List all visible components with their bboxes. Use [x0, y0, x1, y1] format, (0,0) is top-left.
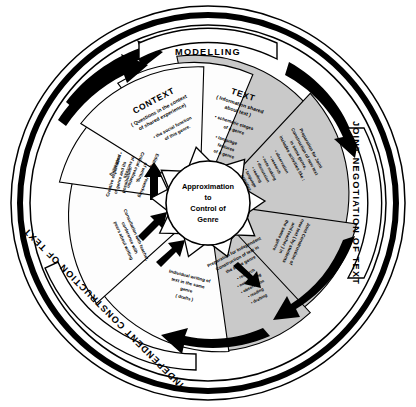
- hub-line-3: Control of: [190, 204, 226, 213]
- teaching-learning-cycle-diagram: Approximation to Control of Genre MODELL…: [0, 0, 416, 407]
- hub-line-1: Approximation: [182, 182, 235, 191]
- hub-line-2: to: [205, 193, 212, 202]
- banner-label-joint-negotiation: JOINT NEGOTIATION OF TEXT: [351, 121, 361, 285]
- banner-label-modelling: MODELLING: [175, 47, 241, 57]
- hub-line-4: Genre: [197, 215, 218, 224]
- hub-circle: [166, 161, 250, 245]
